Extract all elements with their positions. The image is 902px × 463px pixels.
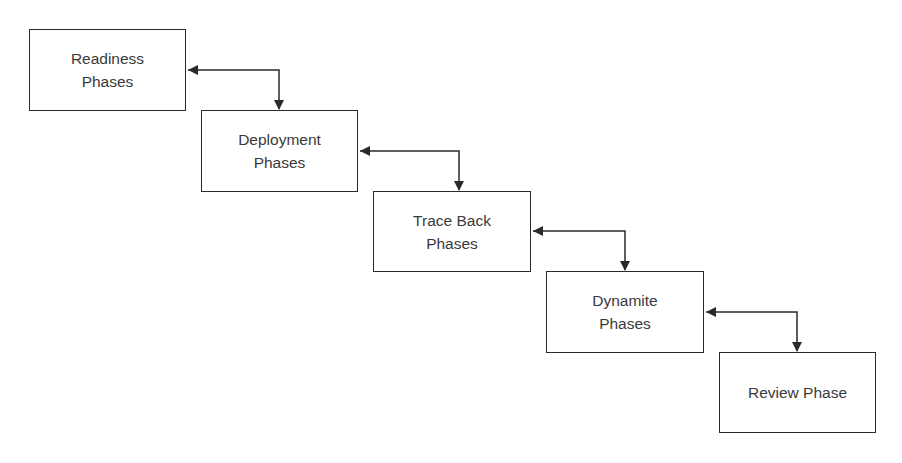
arrowhead-left-icon [533,226,543,236]
arrowhead-left-icon [360,146,370,156]
node-label: Review Phase [748,381,847,404]
node-label: Dynamite Phases [592,289,657,335]
node-deployment-phases: Deployment Phases [201,110,358,192]
connector-readiness-deployment [188,65,279,109]
node-trace-back-phases: Trace Back Phases [373,191,531,272]
node-label: Readiness Phases [71,47,144,93]
node-readiness-phases: Readiness Phases [29,29,186,111]
node-label: Trace Back Phases [413,209,491,255]
arrowhead-left-icon [706,307,716,317]
connector-deployment-traceback [360,146,459,190]
connector-dynamite-review [706,307,797,351]
node-review-phase: Review Phase [719,352,876,433]
arrowhead-left-icon [188,65,198,75]
node-dynamite-phases: Dynamite Phases [546,271,704,353]
connector-traceback-dynamite [533,226,625,270]
node-label: Deployment Phases [238,128,321,174]
